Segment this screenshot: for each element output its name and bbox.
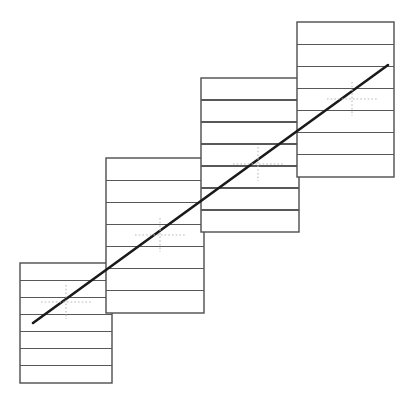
figure-canvas <box>0 0 415 407</box>
diagram-svg <box>0 0 415 407</box>
panel-3 <box>201 78 299 232</box>
panel-outline-3 <box>201 78 299 232</box>
